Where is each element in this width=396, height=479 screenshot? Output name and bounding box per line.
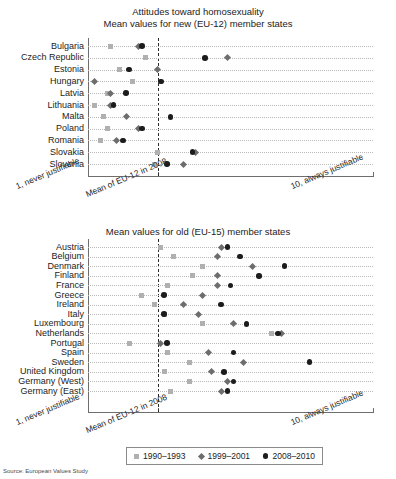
marker-2008-2010 (307, 359, 313, 365)
marker-1999-2001 (230, 320, 237, 327)
marker-1999-2001 (113, 137, 120, 144)
gridline-row (88, 276, 373, 277)
gridline-row (88, 105, 373, 106)
category-label: Hungary (0, 77, 84, 86)
legend-label-2: 2008–2010 (272, 451, 315, 461)
marker-1990-1993 (152, 302, 157, 307)
marker-2008-2010 (164, 340, 170, 346)
x-axis-tick-2 (373, 408, 374, 412)
marker-1999-2001 (198, 291, 205, 298)
marker-2008-2010 (244, 321, 250, 327)
gridline-row (88, 333, 373, 334)
legend-diamond-marker-icon (198, 452, 205, 459)
marker-1999-2001 (214, 253, 221, 260)
marker-1990-1993 (139, 293, 144, 298)
category-label: Bulgaria (0, 42, 84, 51)
chart-panel-old-member-states: Mean values for old (EU-15) member state… (0, 222, 396, 422)
marker-1990-1993 (162, 369, 167, 374)
gridline-row (88, 129, 373, 130)
plot-area-new: BulgariaCzech RepublicEstoniaHungaryLatv… (0, 0, 396, 220)
x-axis-tick-0 (88, 172, 89, 176)
category-label: Estonia (0, 65, 84, 74)
marker-1999-2001 (122, 113, 129, 120)
marker-2008-2010 (120, 138, 126, 144)
marker-2008-2010 (161, 292, 167, 298)
category-label: Lithuania (0, 101, 84, 110)
category-label: Netherlands (0, 329, 84, 338)
marker-1999-2001 (208, 368, 215, 375)
legend-item-0: 1990–1993 (134, 451, 186, 461)
marker-1990-1993 (165, 350, 170, 355)
source-credit: Source: European Values Study (3, 468, 88, 474)
x-axis-right-label: 10, always justifiable (289, 388, 365, 428)
marker-1990-1993 (105, 126, 110, 131)
legend-item-2: 2008–2010 (263, 451, 315, 461)
gridline-row (88, 152, 373, 153)
category-label: Germany (West) (0, 377, 84, 386)
marker-2008-2010 (225, 244, 231, 250)
gridline-row (88, 257, 373, 258)
x-axis-tick-2 (373, 172, 374, 176)
legend-square-marker-icon (134, 454, 139, 459)
category-label: Malta (0, 112, 84, 121)
marker-1990-1993 (165, 283, 170, 288)
marker-1999-2001 (224, 378, 231, 385)
marker-1990-1993 (101, 114, 106, 119)
x-axis-right-label: 10, always justifiable (289, 152, 365, 192)
gridline-row (88, 391, 373, 392)
marker-1999-2001 (214, 272, 221, 279)
marker-1999-2001 (249, 263, 256, 270)
plot-area-old: AustriaBelgiumDenmarkFinlandFranceGreece… (0, 222, 396, 422)
legend-circle-marker-icon (263, 453, 268, 458)
marker-2008-2010 (111, 102, 117, 108)
marker-1990-1993 (269, 331, 274, 336)
gridline-row (88, 305, 373, 306)
legend: 1990–1993 1999–2001 2008–2010 (126, 447, 323, 465)
legend-label-0: 1990–1993 (143, 451, 186, 461)
marker-2008-2010 (139, 126, 145, 132)
marker-1999-2001 (240, 359, 247, 366)
marker-2008-2010 (168, 114, 174, 120)
marker-1999-2001 (205, 349, 212, 356)
gridline-row (88, 46, 373, 47)
category-label: Romania (0, 136, 84, 145)
marker-2008-2010 (231, 350, 237, 356)
category-label: Luxembourg (0, 319, 84, 328)
marker-1990-1993 (98, 138, 103, 143)
reference-line-label: Mean of EU-12 in 2008 (84, 392, 168, 435)
legend-label-1: 1999–2001 (208, 451, 251, 461)
y-axis-line (88, 239, 89, 412)
marker-1999-2001 (214, 282, 221, 289)
category-label: Latvia (0, 89, 84, 98)
marker-1999-2001 (217, 243, 224, 250)
marker-1999-2001 (224, 54, 231, 61)
category-label: Slovakia (0, 148, 84, 157)
marker-1990-1993 (190, 273, 195, 278)
marker-1990-1993 (117, 67, 122, 72)
marker-1990-1993 (171, 254, 176, 259)
category-label: United Kingdom (0, 367, 84, 376)
category-label: Czech Republic (0, 53, 84, 62)
category-label: Poland (0, 124, 84, 133)
category-label: Belgium (0, 252, 84, 261)
marker-1999-2001 (179, 160, 186, 167)
category-label: Ireland (0, 300, 84, 309)
x-axis-left-label: 1, never justifiable (14, 391, 81, 427)
marker-2008-2010 (126, 67, 132, 73)
marker-2008-2010 (228, 283, 234, 289)
gridline-row (88, 140, 373, 141)
marker-2008-2010 (275, 331, 281, 337)
gridline-row (88, 372, 373, 373)
marker-2008-2010 (139, 43, 145, 49)
marker-1990-1993 (143, 55, 148, 60)
gridline-row (88, 117, 373, 118)
marker-2008-2010 (123, 90, 129, 96)
marker-1990-1993 (187, 360, 192, 365)
category-label: France (0, 281, 84, 290)
legend-item-1: 1999–2001 (199, 451, 251, 461)
marker-1999-2001 (91, 78, 98, 85)
chart-panel-new-member-states: Attitudes toward homosexuality Mean valu… (0, 0, 396, 220)
marker-1990-1993 (130, 79, 135, 84)
gridline-row (88, 247, 373, 248)
gridline-row (88, 93, 373, 94)
